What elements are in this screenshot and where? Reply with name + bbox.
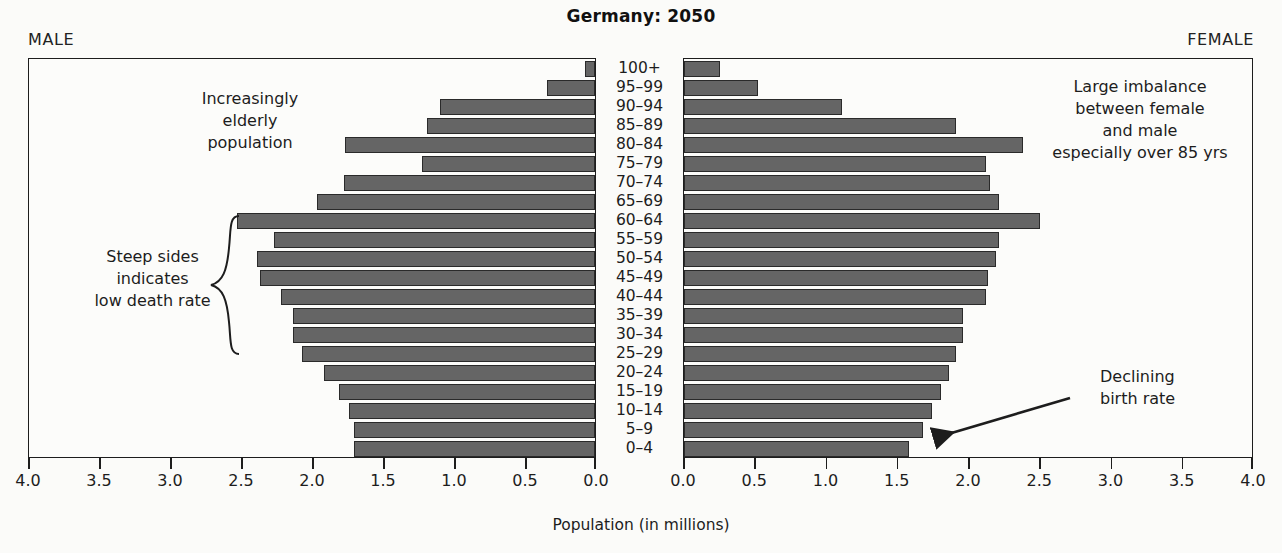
bar-female-95–99 [684,80,758,96]
bar-male-55–59 [274,232,595,248]
age-group-label: 85–89 [596,116,683,134]
age-group-label: 45–49 [596,268,683,286]
axis-tick-label: 1.5 [884,471,909,490]
age-group-label: 20–24 [596,363,683,381]
axis-tick [1182,458,1184,469]
age-group-label: 10–14 [596,401,683,419]
axis-tick [312,458,314,469]
axis-tick [968,458,970,469]
axis-tick [826,458,828,469]
axis-tick [170,458,172,469]
male-x-axis: 4.03.53.02.52.01.51.00.50.0 [28,458,596,504]
bar-female-90–94 [684,99,842,115]
axis-tick-label: 2.5 [228,471,253,490]
age-group-label: 80–84 [596,135,683,153]
birth-rate-arrow-icon [920,385,1090,455]
bar-female-35–39 [684,308,963,324]
age-group-label: 35–39 [596,306,683,324]
bar-male-95–99 [547,80,595,96]
annotation-increasingly-elderly: Increasingly elderly population [130,88,370,154]
bar-female-60–64 [684,213,1040,229]
axis-tick-label: 4.0 [15,471,40,490]
age-group-label: 70–74 [596,173,683,191]
bar-male-85–89 [427,118,595,134]
bar-female-15–19 [684,384,941,400]
age-group-label: 55–59 [596,230,683,248]
bar-male-5–9 [354,422,595,438]
bar-female-30–34 [684,327,963,343]
bar-male-35–39 [293,308,595,324]
bar-female-10–14 [684,403,932,419]
age-group-label: 15–19 [596,382,683,400]
axis-tick-label: 3.5 [1169,471,1194,490]
axis-tick [754,458,756,469]
bar-female-80–84 [684,137,1023,153]
axis-tick [99,458,101,469]
age-group-label: 75–79 [596,154,683,172]
bar-male-15–19 [339,384,595,400]
axis-tick-label: 2.5 [1027,471,1052,490]
bar-female-5–9 [684,422,923,438]
age-group-label: 50–54 [596,249,683,267]
axis-tick [525,458,527,469]
bar-male-60–64 [237,213,595,229]
bar-male-0–4 [354,441,595,457]
age-group-label: 100+ [596,59,683,77]
bar-male-90–94 [440,99,595,115]
bar-male-50–54 [257,251,595,267]
bar-male-30–34 [293,327,595,343]
bar-female-100+ [684,61,720,77]
axis-tick-label: 0.5 [512,471,537,490]
axis-tick-label: 2.0 [955,471,980,490]
bar-female-75–79 [684,156,986,172]
female-x-axis: 0.00.51.01.52.02.53.03.54.0 [683,458,1253,504]
population-pyramid-figure: Germany: 2050 MALE FEMALE 100+95–9990–94… [0,0,1282,553]
axis-tick-label: 3.0 [157,471,182,490]
axis-tick-label: 0.0 [670,471,695,490]
age-group-label: 90–94 [596,97,683,115]
bar-male-80–84 [345,137,595,153]
bar-female-65–69 [684,194,999,210]
age-group-label: 30–34 [596,325,683,343]
curly-brace-icon [205,214,245,356]
axis-tick [454,458,456,469]
axis-tick [1251,458,1253,469]
bar-male-10–14 [349,403,595,419]
x-axis-title: Population (in millions) [0,516,1282,534]
bar-male-70–74 [344,175,595,191]
bar-male-40–44 [281,289,595,305]
age-group-axis: 100+95–9990–9485–8980–8475–7970–7465–696… [596,58,683,458]
bar-female-0–4 [684,441,909,457]
axis-tick-label: 1.0 [813,471,838,490]
axis-tick-label: 2.0 [299,471,324,490]
annotation-large-imbalance: Large imbalance between female and male … [1010,76,1270,164]
axis-tick-label: 0.5 [742,471,767,490]
bar-female-45–49 [684,270,988,286]
bar-male-45–49 [260,270,595,286]
axis-tick-label: 0.0 [583,471,608,490]
axis-tick [28,458,30,469]
axis-tick [594,458,596,469]
axis-tick [897,458,899,469]
age-group-label: 5–9 [596,420,683,438]
axis-tick-label: 1.5 [370,471,395,490]
age-group-label: 40–44 [596,287,683,305]
bar-male-20–24 [324,365,595,381]
bar-female-20–24 [684,365,949,381]
axis-tick [1111,458,1113,469]
annotation-declining-birth-rate: Declining birth rate [1100,366,1260,410]
axis-tick-label: 3.5 [86,471,111,490]
page-title: Germany: 2050 [0,6,1282,26]
axis-tick [683,458,685,469]
bar-male-100+ [585,61,595,77]
female-side-label: FEMALE [1187,30,1254,49]
age-group-label: 95–99 [596,78,683,96]
axis-tick [241,458,243,469]
axis-tick-label: 1.0 [441,471,466,490]
male-side-label: MALE [28,30,74,49]
bar-male-65–69 [317,194,595,210]
axis-tick [1039,458,1041,469]
age-group-label: 0–4 [596,439,683,457]
bar-female-25–29 [684,346,956,362]
bar-female-50–54 [684,251,996,267]
